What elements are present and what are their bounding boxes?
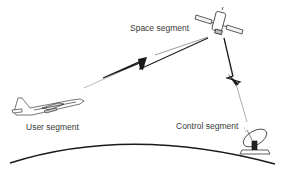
airplane-icon: [12, 98, 84, 115]
user-segment-label: User segment: [26, 123, 79, 132]
control-space-link: [224, 38, 247, 122]
space-segment-label: Space segment: [130, 24, 189, 33]
satellite-icon: [195, 7, 243, 35]
earth-horizon: [10, 144, 275, 164]
user-space-link: [84, 37, 208, 88]
segments-diagram: Space segment User segment Control segme…: [0, 0, 285, 178]
control-segment-label: Control segment: [176, 122, 238, 131]
ground-antenna-icon: [240, 125, 270, 154]
